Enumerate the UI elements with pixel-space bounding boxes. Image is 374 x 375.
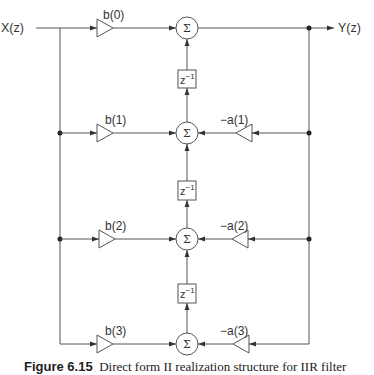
gain-label-b2: b(2) [105, 219, 126, 233]
gain-label-a1: −a(1) [220, 113, 248, 127]
input-label: X(z) [1, 21, 24, 35]
output-junction-dot [307, 26, 312, 31]
right-junction-dot-2 [307, 237, 312, 242]
gain-label-a3: −a(3) [220, 324, 248, 338]
figure-caption: Figure 6.15 Direct form II realization s… [24, 359, 346, 375]
gain-label-b1: b(1) [105, 113, 126, 127]
gain-label-a2: −a(2) [220, 219, 248, 233]
sum-symbol-2: Σ [183, 233, 191, 246]
gain-label-b0: b(0) [103, 8, 124, 22]
sum-symbol-3: Σ [183, 338, 191, 351]
figure-number: Figure 6.15 [24, 359, 93, 374]
sum-symbol-1: Σ [183, 127, 191, 140]
gain-label-b3: b(3) [105, 324, 126, 338]
figure-caption-text: Direct form II realization structure for… [99, 359, 346, 374]
right-junction-dot-1 [307, 131, 312, 136]
sum-symbol-0: Σ [183, 22, 191, 35]
output-label: Y(z) [338, 21, 361, 35]
